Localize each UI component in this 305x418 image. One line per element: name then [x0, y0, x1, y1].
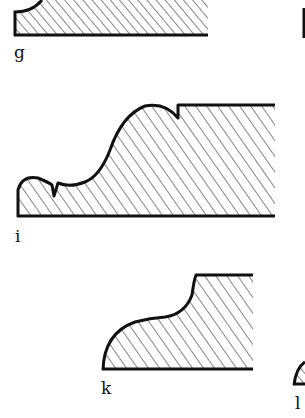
label-l: l [295, 395, 300, 412]
label-i: i [15, 228, 20, 245]
label-g: g [14, 44, 25, 61]
label-k: k [101, 380, 111, 397]
profile-k [102, 275, 253, 370]
profile-g [14, 0, 208, 36]
molding-profiles-diagram [0, 0, 305, 418]
profile-i [17, 105, 275, 217]
profile-l [293, 362, 305, 385]
